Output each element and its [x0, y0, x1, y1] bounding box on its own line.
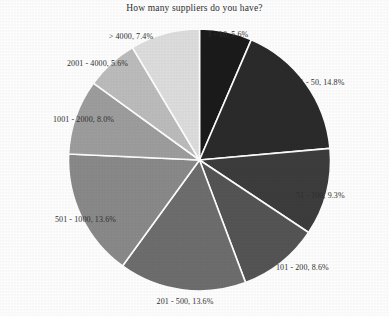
pie-label-2001-4000: 2001 - 4000, 5.6%: [18, 60, 128, 68]
pie-label-101-200: 101 - 200, 8.6%: [276, 264, 386, 272]
pie-label-51-100: 51 - 100, 9.3%: [296, 192, 386, 200]
pie-label-1001-2000: 1001 - 2000, 8.0%: [4, 116, 114, 124]
pie-label-11-50: 11 - 50, 14.8%: [296, 79, 386, 87]
pie-label-501-1000: 501 - 1000, 13.6%: [6, 216, 116, 224]
pie-chart: How many suppliers do you have? 1 - 10, …: [0, 0, 389, 316]
pie-label-1-10: 1 - 10, 5.6%: [178, 31, 278, 39]
pie-label-201-500: 201 - 500, 13.6%: [120, 298, 250, 306]
pie-label-gt-4000: > 4000, 7.4%: [86, 33, 176, 41]
